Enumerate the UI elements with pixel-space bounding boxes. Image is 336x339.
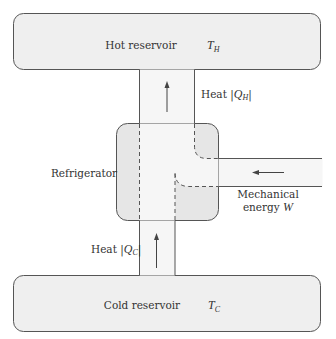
refrigerator-label: Refrigerator	[51, 167, 118, 179]
cold-reservoir: Cold reservoir TC	[14, 276, 321, 332]
hot-reservoir-label: Hot reservoir	[105, 39, 178, 51]
hot-reservoir: Hot reservoir TH	[14, 14, 321, 70]
cold-reservoir-label: Cold reservoir	[104, 299, 181, 311]
heat-in-channel: Heat |QC|	[91, 221, 175, 276]
heat-out-label: Heat |QH|	[201, 87, 252, 102]
work-in-label-line1: Mechanical	[237, 188, 299, 200]
work-in-label-line2: energy W	[243, 200, 294, 214]
heat-out-channel: Heat |QH|	[140, 70, 252, 124]
refrigerator-box: Refrigerator	[51, 124, 219, 221]
work-in-channel: Mechanical energy W	[219, 159, 323, 215]
heat-in-label: Heat |QC|	[91, 242, 141, 257]
refrigerator-diagram: Hot reservoir TH Cold reservoir TC Refri…	[0, 0, 336, 339]
